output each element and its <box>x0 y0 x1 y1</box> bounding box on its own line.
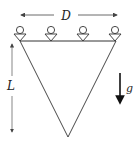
height-dimension: L <box>6 44 15 132</box>
roller-pin-icon <box>77 26 89 41</box>
width-dimension: D <box>21 9 117 23</box>
roller-pin-icon <box>14 26 26 41</box>
triangle-diagram: D <box>0 0 136 142</box>
gravity-label: g <box>126 82 133 95</box>
roller-pin-icon <box>45 26 57 41</box>
width-label: D <box>60 9 71 23</box>
inverted-triangle <box>20 41 116 137</box>
gravity-arrow: g <box>120 73 133 100</box>
supports <box>14 26 121 41</box>
diagram-canvas: D <box>0 0 136 142</box>
roller-pin-icon <box>109 26 121 41</box>
height-label: L <box>6 79 15 93</box>
